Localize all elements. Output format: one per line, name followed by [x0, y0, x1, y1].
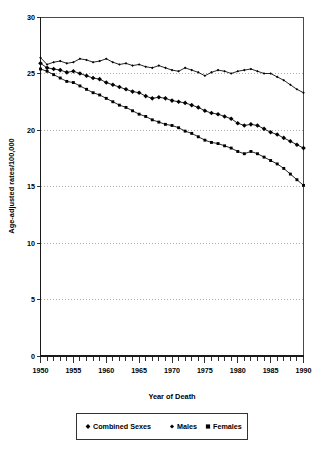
data-point [269, 159, 272, 162]
data-point [150, 96, 155, 101]
data-point [276, 162, 279, 165]
data-point [98, 60, 101, 63]
x-axis-ticks [41, 356, 304, 363]
data-point [66, 62, 69, 65]
data-point [143, 94, 148, 99]
data-point [230, 72, 233, 75]
x-tick-label-1990: 1990 [296, 366, 312, 375]
x-axis-tick-labels: 195019551960196519701975198019851990 [33, 366, 312, 375]
data-point [295, 178, 298, 181]
y-axis-title: Age-adjusted rates/100,000 [7, 138, 16, 233]
data-point [138, 63, 141, 66]
data-point [243, 69, 246, 72]
data-point [65, 70, 70, 75]
legend-label-combined-sexes: Combined Sexes [93, 422, 151, 431]
y-tick-label-10: 10 [27, 239, 35, 248]
data-point [190, 132, 193, 135]
line-chart: 051015202530 195019551960196519701975198… [0, 0, 324, 454]
figure-container: 051015202530 195019551960196519701975198… [0, 0, 324, 454]
data-point [97, 77, 102, 82]
data-point [84, 73, 89, 78]
data-point [59, 60, 62, 63]
data-point [262, 127, 267, 132]
data-point [197, 135, 200, 138]
data-point [111, 100, 114, 103]
data-point [79, 84, 82, 87]
legend-label-males: Males [177, 422, 197, 431]
data-point [85, 88, 88, 91]
data-point [203, 108, 208, 113]
data-point [144, 115, 147, 118]
data-point [71, 69, 76, 74]
data-point [288, 139, 293, 144]
y-tick-label-0: 0 [31, 352, 35, 361]
data-point [164, 67, 167, 70]
series-males [39, 56, 305, 94]
data-point [210, 141, 213, 144]
data-point [281, 136, 286, 141]
data-point [183, 101, 188, 106]
data-point [263, 156, 266, 159]
data-point [130, 89, 135, 94]
data-point [170, 98, 175, 103]
data-point [236, 150, 239, 153]
data-point [118, 104, 121, 107]
data-point [124, 87, 129, 92]
data-point [151, 118, 154, 121]
y-tick-label-25: 25 [27, 69, 35, 78]
data-point [243, 152, 246, 155]
data-point [242, 123, 247, 128]
data-point [131, 109, 134, 112]
data-point [203, 139, 206, 142]
data-point [137, 90, 142, 95]
data-point [118, 63, 121, 66]
data-point [117, 85, 122, 90]
x-tick-label-1955: 1955 [65, 366, 81, 375]
data-point [98, 94, 101, 97]
series-combined-sexes [38, 61, 306, 150]
data-point [59, 77, 62, 80]
x-tick-label-1950: 1950 [33, 366, 49, 375]
data-point [223, 144, 226, 147]
data-point [256, 152, 259, 155]
y-tick-label-5: 5 [31, 295, 35, 304]
data-point [51, 67, 56, 72]
data-point [217, 142, 220, 145]
y-axis-tick-labels: 051015202530 [27, 13, 35, 361]
data-point [282, 167, 285, 170]
data-point [275, 132, 280, 137]
data-point [58, 68, 63, 73]
data-point [105, 97, 108, 100]
data-point [131, 64, 134, 67]
data-point [52, 61, 55, 64]
series-females [39, 68, 305, 187]
data-point [176, 99, 181, 104]
data-point [39, 68, 42, 71]
x-tick-label-1985: 1985 [263, 366, 279, 375]
data-point [268, 130, 273, 135]
x-tick-label-1970: 1970 [164, 366, 180, 375]
data-point [46, 70, 49, 73]
data-point [223, 70, 226, 73]
data-point [189, 103, 194, 108]
data-point [256, 70, 259, 73]
chart-legend: Combined SexesMalesFemales [77, 414, 248, 440]
data-point [236, 70, 239, 73]
data-point [111, 83, 116, 88]
data-point [249, 150, 252, 153]
data-point [230, 147, 233, 150]
data-point [91, 76, 96, 81]
legend-label-females: Females [213, 422, 242, 431]
x-tick-label-1960: 1960 [98, 366, 114, 375]
data-point [171, 69, 174, 72]
y-tick-label-30: 30 [27, 13, 35, 22]
x-axis-title: Year of Death [148, 392, 196, 401]
x-tick-label-1975: 1975 [197, 366, 213, 375]
data-point [157, 121, 160, 124]
gridlines [41, 74, 304, 300]
data-point [157, 95, 162, 100]
data-point [78, 71, 83, 76]
data-series [38, 56, 306, 186]
series-line [41, 63, 304, 148]
data-point [52, 73, 55, 76]
